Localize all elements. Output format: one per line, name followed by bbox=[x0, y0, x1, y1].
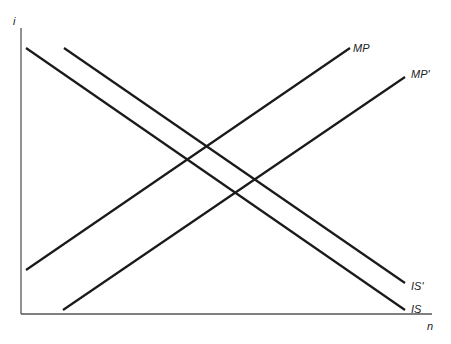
x-axis-label: n bbox=[427, 320, 433, 332]
is-prime-curve-label: IS' bbox=[411, 280, 424, 292]
mp-curve-label: MP bbox=[353, 42, 370, 54]
is-curve bbox=[26, 48, 405, 310]
is-prime-curve bbox=[64, 48, 405, 283]
axes: i n bbox=[13, 15, 433, 332]
curve-is: IS bbox=[26, 48, 422, 315]
is-mp-diagram: i n IS IS' MP MP' bbox=[0, 0, 451, 344]
mp-prime-curve-label: MP' bbox=[411, 68, 431, 80]
curve-is-prime: IS' bbox=[64, 48, 424, 292]
curve-mp-prime: MP' bbox=[63, 68, 431, 310]
curve-mp: MP bbox=[26, 42, 370, 270]
is-curve-label: IS bbox=[411, 303, 422, 315]
y-axis-label: i bbox=[13, 15, 16, 27]
